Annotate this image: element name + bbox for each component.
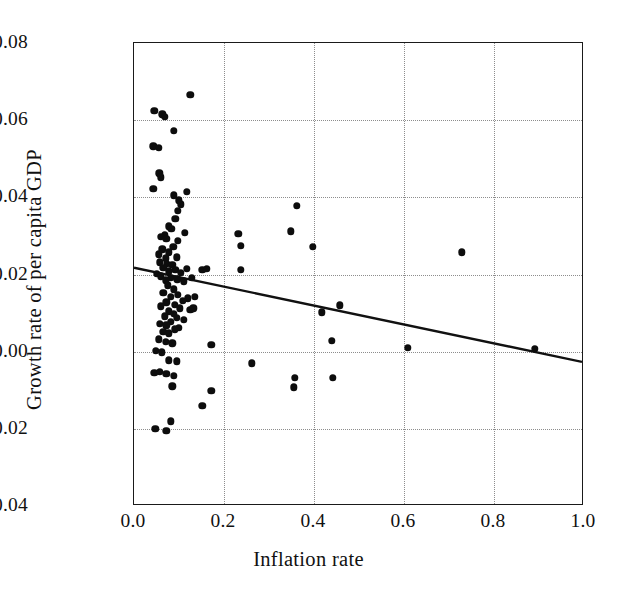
data-point [293,202,300,209]
data-point [531,345,538,352]
data-point [158,349,165,356]
data-point [151,107,158,114]
data-point [208,387,215,394]
data-point [188,274,195,281]
data-point [169,339,176,346]
data-point [165,329,172,336]
x-axis-tick-label: 0.6 [391,510,416,532]
data-point [163,427,170,434]
data-point [172,215,179,222]
data-point [181,229,188,236]
data-point [248,360,255,367]
data-point [167,417,174,424]
data-point [151,425,158,432]
data-point [155,144,162,151]
data-point [336,302,343,309]
x-axis-tick-label: 0.8 [481,510,506,532]
data-point [157,174,164,181]
data-point [458,248,465,255]
data-point [291,374,298,381]
data-point [163,235,170,242]
data-point [176,305,183,312]
data-point [309,243,316,250]
data-point [404,344,411,351]
data-point [328,337,335,344]
data-point [290,383,297,390]
data-point [174,237,181,244]
x-axis-tick-label: 0.4 [301,510,326,532]
plot-area [133,42,583,505]
data-point [329,374,336,381]
data-point [173,253,180,260]
data-point [180,278,187,285]
y-axis-title: Growth rate of per capita GDP [23,50,46,510]
data-point [179,297,186,304]
data-point [237,242,244,249]
scatter-plot-figure: 0.080.060.040.020.00−0.02−0.04 0.00.20.4… [0,0,617,603]
data-point [165,356,172,363]
x-axis-title: Inflation rate [0,548,617,571]
data-point [203,265,210,272]
data-point [235,230,242,237]
data-point [157,302,164,309]
x-axis-tick-label: 1.0 [571,510,596,532]
data-point [180,316,187,323]
x-axis-tick-label: 0.0 [121,510,146,532]
data-point [187,91,194,98]
data-point [170,372,177,379]
data-point [237,266,244,273]
x-axis-tick-label: 0.2 [211,510,236,532]
data-point [183,188,190,195]
data-point [160,289,167,296]
data-point [318,309,325,316]
data-point [174,207,181,214]
data-point [190,305,197,312]
data-point [168,225,175,232]
data-point [199,402,206,409]
data-point [170,127,177,134]
data-point [208,341,215,348]
data-points-layer [134,43,582,504]
data-point [150,185,157,192]
data-point [191,293,198,300]
data-point [183,265,190,272]
data-point [173,358,180,365]
data-point [161,113,168,120]
data-point [169,383,176,390]
data-point [287,228,294,235]
